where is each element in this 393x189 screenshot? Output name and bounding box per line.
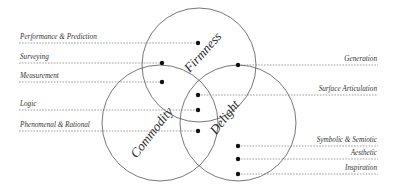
- point-dot: [160, 61, 164, 65]
- point-dot: [196, 129, 200, 133]
- right-label: Symbolic & Semiotic: [317, 136, 378, 144]
- left-label: Measurement: [19, 72, 60, 80]
- commodity-circle-label: Commodity: [127, 104, 176, 161]
- delight-circle: [180, 65, 296, 181]
- right-label: Generation: [344, 55, 377, 63]
- point-dot: [196, 93, 200, 97]
- point-dot: [236, 63, 240, 67]
- point-dot: [236, 172, 240, 176]
- left-label: Surveying: [20, 53, 49, 61]
- left-label: Phenomenal & Rational: [19, 121, 90, 129]
- point-dot: [236, 144, 240, 148]
- point-dot: [160, 80, 164, 84]
- architecture-venn-diagram: FirmnessCommodityDelightPerformance & Pr…: [0, 0, 393, 189]
- right-label: Inspiration: [344, 164, 377, 172]
- left-label: Logic: [19, 100, 37, 108]
- delight-circle-label: Delight: [206, 97, 243, 138]
- point-dot: [196, 108, 200, 112]
- left-label: Performance & Prediction: [19, 33, 97, 41]
- point-dot: [236, 157, 240, 161]
- right-label: Surface Articulation: [319, 85, 378, 93]
- right-label: Aesthetic: [350, 149, 378, 157]
